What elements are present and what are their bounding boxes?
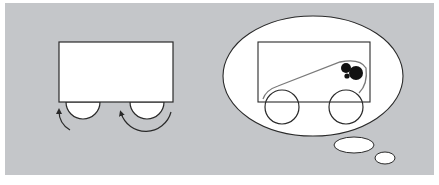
left-cart-body bbox=[59, 42, 173, 102]
thought-bubble-tail-large bbox=[334, 137, 374, 153]
ball-icon bbox=[344, 73, 349, 78]
thought-bubble-tail-small bbox=[375, 152, 395, 164]
ball-icon bbox=[349, 66, 363, 80]
thought-bubble-main bbox=[223, 16, 403, 136]
diagram-canvas bbox=[0, 0, 439, 185]
